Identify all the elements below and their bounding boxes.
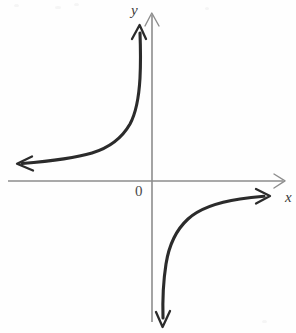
x-axis-label: x xyxy=(285,190,292,205)
hyperbola-graph xyxy=(0,0,296,333)
curve-branch-quadrant-4 xyxy=(163,196,264,318)
origin-label: 0 xyxy=(135,184,143,199)
y-axis-label: y xyxy=(131,3,138,18)
figure-root: y x 0 xyxy=(0,0,296,333)
curve-branch-quadrant-2 xyxy=(22,33,140,164)
